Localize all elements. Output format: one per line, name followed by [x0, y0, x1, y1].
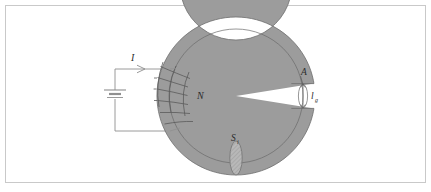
gap-length-subscript: g — [315, 97, 318, 103]
gap-length-label-group: l g — [311, 91, 318, 103]
current-label: I — [130, 52, 135, 63]
gap-area-label: A — [300, 67, 307, 77]
battery-symbol — [104, 90, 126, 98]
toroid-diagram: I — [0, 0, 431, 192]
figure-container: I — [0, 0, 431, 192]
turns-label: N — [196, 90, 205, 101]
core-section-label: S — [231, 133, 236, 143]
gap-length-label: l — [311, 91, 314, 101]
section-ellipse — [230, 141, 242, 175]
core-cross-section — [230, 141, 242, 175]
